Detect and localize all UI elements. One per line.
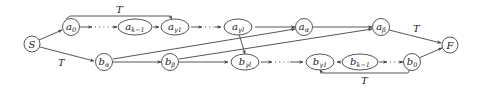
node-a-beta: aβ <box>373 19 390 36</box>
node-b-gamma-l: bγl <box>231 54 259 70</box>
node-a-k-1: ak−1 <box>118 19 152 35</box>
node-a0: a0 <box>63 19 80 36</box>
node-a-alpha: aα <box>296 19 313 36</box>
svg-text:S: S <box>29 39 36 50</box>
node-a-gamma-l: aγl <box>224 19 252 35</box>
node-b0: b0 <box>404 54 421 71</box>
edge-b0-f <box>419 48 442 58</box>
node-b-alpha: bα <box>96 54 113 71</box>
edge-label-bottom-t: T <box>361 75 369 86</box>
edge-bbeta-abeta <box>179 29 372 59</box>
edge-a0-ag1-arc <box>66 16 172 19</box>
node-b-gamma-1: bγ1 <box>306 54 334 70</box>
graph-diagram: T T T T S a0 ak−1 aγ1 aγl <box>0 0 482 91</box>
svg-text:F: F <box>446 40 455 51</box>
node-f: F <box>442 37 458 53</box>
edge-label-s-balpha-t: T <box>58 57 66 68</box>
node-s: S <box>24 36 40 52</box>
edge-label-abeta-f-t: T <box>413 23 421 34</box>
edge-s-a0 <box>39 30 62 40</box>
node-b-k-1: bk−1 <box>342 54 378 70</box>
nodes: S a0 ak−1 aγ1 aγl aα aβ <box>24 19 458 71</box>
edge-label-top-t: T <box>116 4 124 15</box>
node-b-beta: bβ <box>162 54 179 71</box>
node-a-gamma-1: aγ1 <box>161 19 189 35</box>
edge-s-balpha <box>40 47 94 61</box>
